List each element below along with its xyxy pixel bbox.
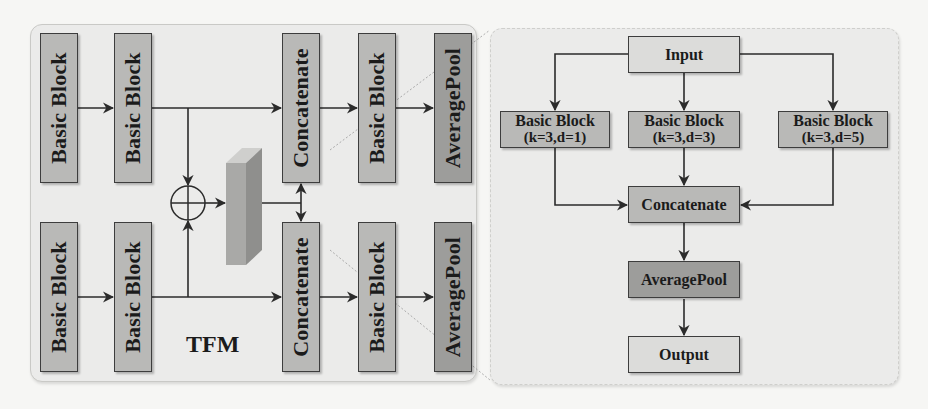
node-params: (k=3,d=1) [524, 129, 587, 146]
concatenate-node: Concatenate [628, 186, 740, 223]
output-node: Output [628, 336, 740, 373]
tfm-top-basic-block-3: Basic Block [358, 33, 396, 183]
tfm-bottom-concatenate: Concatenate [282, 222, 320, 372]
block-label: Basic Block [46, 241, 72, 353]
block-label: Concatenate [288, 237, 314, 357]
tfm-module-panel [30, 24, 477, 382]
block-label: AveragePool [440, 237, 466, 357]
block-label: Basic Block [120, 241, 146, 353]
block-label: Concatenate [288, 48, 314, 168]
input-node: Input [628, 36, 740, 73]
node-label: AveragePool [641, 272, 727, 288]
averagepool-node: AveragePool [628, 261, 740, 298]
branch-basic-block-d5: Basic Block (k=3,d=5) [778, 111, 888, 148]
branch-basic-block-d3: Basic Block (k=3,d=3) [628, 111, 740, 148]
tfm-top-basic-block-2: Basic Block [114, 33, 152, 183]
tfm-top-concatenate: Concatenate [282, 33, 320, 183]
node-label: Basic Block [793, 113, 873, 129]
tfm-bottom-averagepool: AveragePool [434, 222, 472, 372]
node-label: Input [665, 47, 703, 63]
node-label: Basic Block [515, 113, 595, 129]
block-label: Basic Block [364, 241, 390, 353]
block-label: Basic Block [364, 52, 390, 164]
node-params: (k=3,d=5) [802, 129, 865, 146]
block-label: Basic Block [46, 52, 72, 164]
tfm-bottom-basic-block-2: Basic Block [114, 222, 152, 372]
branch-basic-block-d1: Basic Block (k=3,d=1) [500, 111, 610, 148]
node-label: Concatenate [641, 197, 726, 213]
tfm-bottom-basic-block-3: Basic Block [358, 222, 396, 372]
tfm-top-averagepool: AveragePool [434, 33, 472, 183]
block-label: AveragePool [440, 48, 466, 168]
tfm-bottom-basic-block-1: Basic Block [40, 222, 78, 372]
tfm-module-label: TFM [186, 331, 239, 358]
node-label: Output [659, 347, 709, 363]
node-params: (k=3,d=3) [653, 129, 716, 146]
node-label: Basic Block [644, 113, 724, 129]
block-label: Basic Block [120, 52, 146, 164]
tfm-top-basic-block-1: Basic Block [40, 33, 78, 183]
